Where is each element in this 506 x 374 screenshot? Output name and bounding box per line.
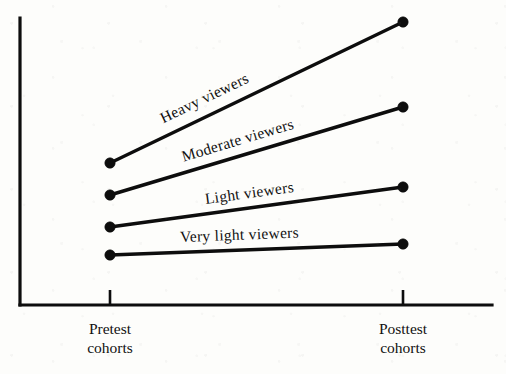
series-line-3 [110,244,403,255]
axis-ticks-group [110,290,403,305]
tick-label-line1: Posttest [333,319,473,338]
x-axis-tick-label-0: Pretestcohorts [40,319,180,357]
data-point-marker [105,158,115,168]
chart-figure: Heavy viewersModerate viewersLight viewe… [0,0,506,374]
tick-label-line2: cohorts [40,338,180,357]
data-point-marker [398,182,408,192]
data-point-marker [105,222,115,232]
data-point-marker [398,17,408,27]
data-point-marker [105,190,115,200]
tick-label-line2: cohorts [333,338,473,357]
data-point-marker [105,250,115,260]
tick-label-line1: Pretest [40,319,180,338]
data-point-marker [398,102,408,112]
axes-group [20,18,492,305]
x-axis-tick-label-1: Posttestcohorts [333,319,473,357]
data-point-marker [398,239,408,249]
